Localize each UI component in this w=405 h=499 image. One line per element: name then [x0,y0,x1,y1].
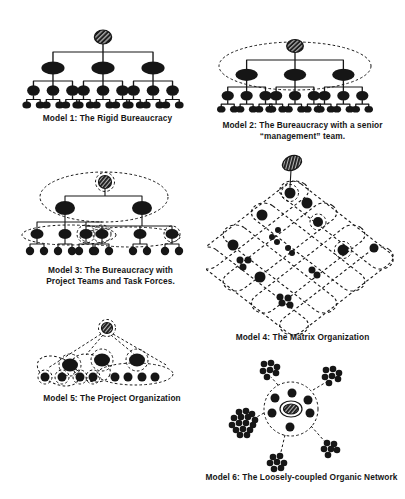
hub-node [284,404,299,414]
model-6-diagram [212,352,397,476]
top-node [102,323,113,334]
model-1-figure [14,24,194,119]
satellite-cluster [267,453,288,473]
model-3-caption-line: Model 3: The Bureaucracy with [18,265,203,276]
satellite-cluster [229,408,259,439]
rigid-bureaucracy-tree [22,30,183,109]
model-2-caption-line: “management” team. [205,131,400,142]
model-5-figure [28,310,198,398]
satellite-cluster [260,360,281,381]
model-3-diagram [18,168,203,278]
bureaucracy-with-project-teams [22,172,183,255]
top-node [280,152,304,173]
model-1-diagram [14,24,194,119]
satellite-cluster [322,366,343,387]
top-node [99,176,112,189]
model-1-caption: Model 1: The Rigid Bureaucracy [20,113,195,124]
model-6-figure [212,352,397,476]
project-organization [33,320,173,393]
model-6-caption: Model 6: The Loosely-coupled Organic Net… [198,472,405,483]
satellite-cluster [321,440,341,459]
model-2-caption: Model 2: The Bureaucracy with a senior “… [205,120,400,142]
page: Model 1: The Rigid Bureaucracy Model 2: … [0,0,405,499]
model-4-figure [206,150,401,340]
matrix-members [228,185,379,309]
organic-network [229,360,343,473]
model-4-diagram [206,150,401,340]
model-4-caption-line: Model 4: The Matrix Organization [205,332,400,343]
matrix-organization [206,152,400,340]
bureaucracy-with-senior-team [217,39,373,112]
model-6-caption-line: Model 6: The Loosely-coupled Organic Net… [198,472,405,483]
model-5-caption: Model 5: The Project Organization [22,393,202,404]
model-5-diagram [28,310,198,398]
model-2-caption-line: Model 2: The Bureaucracy with a senior [205,120,400,131]
model-3-caption-line: Project Teams and Task Forces. [18,276,203,287]
model-1-caption-line: Model 1: The Rigid Bureaucracy [20,113,195,124]
model-5-caption-line: Model 5: The Project Organization [22,393,202,404]
model-3-caption: Model 3: The Bureaucracy with Project Te… [18,265,203,287]
model-4-caption: Model 4: The Matrix Organization [205,332,400,343]
model-3-figure [18,168,203,278]
